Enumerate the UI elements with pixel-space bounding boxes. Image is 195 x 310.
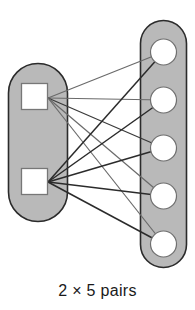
bipartite-pairing-figure: 2 × 5 pairs — [0, 0, 195, 310]
right-node-circle-5 — [151, 231, 177, 257]
right-node-circle-2 — [151, 87, 177, 113]
figure-caption: 2 × 5 pairs — [0, 282, 195, 300]
bipartite-graph-diagram — [0, 0, 195, 310]
right-node-circle-3 — [151, 135, 177, 161]
left-node-square-1 — [22, 84, 48, 110]
left-node-square-2 — [22, 169, 48, 195]
right-node-circle-4 — [151, 183, 177, 209]
right-node-circle-1 — [151, 39, 177, 65]
